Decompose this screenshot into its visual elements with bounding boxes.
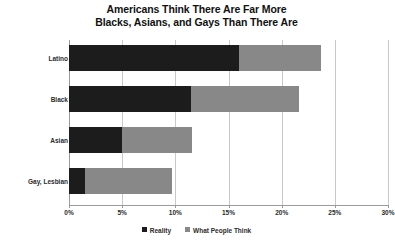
y-axis-category-label: Latino bbox=[49, 55, 69, 62]
tick-mark-20pct bbox=[282, 205, 283, 208]
x-tick-label: 15% bbox=[222, 209, 235, 216]
chart-title-line-1: Americans Think There Are Far More bbox=[0, 3, 393, 16]
x-tick-label: 0% bbox=[64, 209, 73, 216]
bar-segment[interactable] bbox=[69, 168, 85, 194]
legend-item[interactable]: What People Think bbox=[185, 226, 251, 234]
bar-segment[interactable] bbox=[85, 168, 172, 194]
x-tick-label: 10% bbox=[169, 209, 182, 216]
legend-label: What People Think bbox=[193, 227, 251, 234]
bar-segment[interactable] bbox=[122, 127, 192, 153]
bar-segment[interactable] bbox=[191, 86, 298, 112]
bar-segment[interactable] bbox=[69, 86, 191, 112]
tick-mark-10pct bbox=[175, 205, 176, 208]
legend-label: Reality bbox=[150, 227, 171, 234]
x-tick-label: 25% bbox=[328, 209, 341, 216]
x-tick-label: 20% bbox=[275, 209, 288, 216]
y-axis-category-label: Asian bbox=[50, 137, 68, 144]
y-axis-category-label: Black bbox=[51, 96, 68, 103]
bar-segment[interactable] bbox=[69, 45, 239, 71]
x-tick-label: 30% bbox=[381, 209, 394, 216]
tick-mark-5pct bbox=[122, 205, 123, 208]
tick-mark-25pct bbox=[335, 205, 336, 208]
tick-mark-15pct bbox=[229, 205, 230, 208]
chart-title: Americans Think There Are Far More Black… bbox=[0, 3, 393, 29]
bar-segment[interactable] bbox=[69, 127, 122, 153]
tick-mark-0pct bbox=[69, 205, 70, 208]
bar-segment[interactable] bbox=[239, 45, 321, 71]
y-axis-category-label: Gay, Lesbian bbox=[28, 178, 68, 185]
legend-swatch-icon bbox=[185, 227, 190, 232]
x-tick-label: 5% bbox=[117, 209, 126, 216]
legend-swatch-icon bbox=[142, 227, 147, 232]
tick-mark-30pct bbox=[388, 205, 389, 208]
legend-item[interactable]: Reality bbox=[142, 226, 171, 234]
chart-title-line-2: Blacks, Asians, and Gays Than There Are bbox=[0, 16, 393, 29]
chart-legend: RealityWhat People Think bbox=[0, 226, 393, 234]
